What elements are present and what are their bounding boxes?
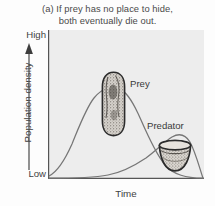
didinium-predator-organism-icon — [157, 138, 193, 173]
prey-series-label: Prey — [130, 78, 150, 89]
up-arrow-icon — [22, 42, 36, 170]
caption-line-1: (a) If prey has no place to hide, — [0, 3, 215, 15]
caption-line-2: both eventually die out. — [0, 15, 215, 27]
y-axis-tick-high: High — [8, 29, 46, 40]
figure-panel: (a) If prey has no place to hide, both e… — [0, 0, 215, 206]
x-axis-title: Time — [48, 188, 204, 199]
paramecium-prey-organism-icon — [101, 71, 126, 137]
plot-area: Prey Predator — [48, 30, 204, 179]
predator-series-label: Predator — [147, 120, 184, 131]
figure-caption: (a) If prey has no place to hide, both e… — [0, 3, 215, 26]
